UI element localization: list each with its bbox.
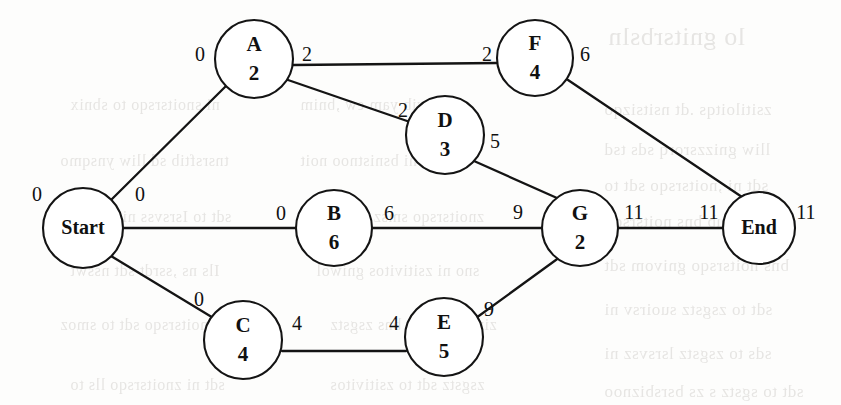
time-label-lbl-g-ef: 11 <box>624 201 643 223</box>
node-a[interactable]: A2 <box>215 20 293 98</box>
time-label-lbl-c-es: 0 <box>194 288 204 310</box>
node-g[interactable]: G2 <box>542 190 618 266</box>
node-label-c: C <box>235 313 250 337</box>
edge-a-to-f <box>293 63 497 65</box>
node-f[interactable]: F4 <box>497 20 573 96</box>
edge-d-to-g <box>474 161 557 198</box>
activity-network-diagram: StartA2B6C4D3E5F4G2End 00020604254926911… <box>0 0 841 405</box>
time-label-lbl-g-es: 9 <box>513 201 523 223</box>
time-label-lbl-b-ef: 6 <box>384 202 394 224</box>
node-b[interactable]: B6 <box>296 190 372 266</box>
node-label-g: G <box>572 201 588 225</box>
node-label-a: A <box>246 32 262 56</box>
node-label-b: B <box>327 201 341 225</box>
time-label-lbl-e-ef: 9 <box>484 298 494 320</box>
node-e[interactable]: E5 <box>405 298 483 376</box>
node-duration-d: 3 <box>440 137 451 161</box>
node-end[interactable]: End <box>723 192 795 264</box>
node-label-e: E <box>437 310 451 334</box>
node-c[interactable]: C4 <box>204 301 282 379</box>
node-label-f: F <box>529 31 542 55</box>
edge-f-to-end <box>568 80 742 197</box>
time-label-lbl-f-ef: 6 <box>580 43 590 65</box>
nodes-group: StartA2B6C4D3E5F4G2End <box>43 20 795 379</box>
time-label-lbl-end-es: 11 <box>699 201 718 223</box>
node-duration-e: 5 <box>439 339 450 363</box>
edge-start-to-a <box>111 86 226 200</box>
edge-a-to-d <box>288 80 410 122</box>
node-duration-g: 2 <box>575 230 586 254</box>
node-start[interactable]: Start <box>43 188 123 268</box>
node-duration-b: 6 <box>329 230 340 254</box>
time-label-lbl-a-es: 0 <box>195 43 205 65</box>
time-label-lbl-a-ef: 2 <box>302 43 312 65</box>
time-label-lbl-d-es: 2 <box>398 99 408 121</box>
time-label-lbl-d-ef: 5 <box>490 130 500 152</box>
node-duration-a: 2 <box>249 61 260 85</box>
time-label-lbl-b-es: 0 <box>276 202 286 224</box>
edge-labels-group: 000206042549269111111 <box>32 43 816 334</box>
node-duration-f: 4 <box>530 60 541 84</box>
time-label-lbl-end-ef: 11 <box>796 201 815 223</box>
time-label-lbl-start-es: 0 <box>32 183 42 205</box>
time-label-lbl-e-es: 4 <box>389 312 399 334</box>
time-label-lbl-c-ef: 4 <box>292 312 302 334</box>
node-duration-c: 4 <box>238 342 249 366</box>
node-label-d: D <box>437 108 452 132</box>
diagram-canvas: lo gnitsrbslnni snoitsrsqo to sbnixew sb… <box>0 0 841 405</box>
time-label-lbl-f-es: 2 <box>482 43 492 65</box>
time-label-lbl-start-ef: 0 <box>135 183 145 205</box>
node-label-end: End <box>741 216 777 238</box>
node-label-start: Start <box>61 216 105 238</box>
node-d[interactable]: D3 <box>406 96 484 174</box>
